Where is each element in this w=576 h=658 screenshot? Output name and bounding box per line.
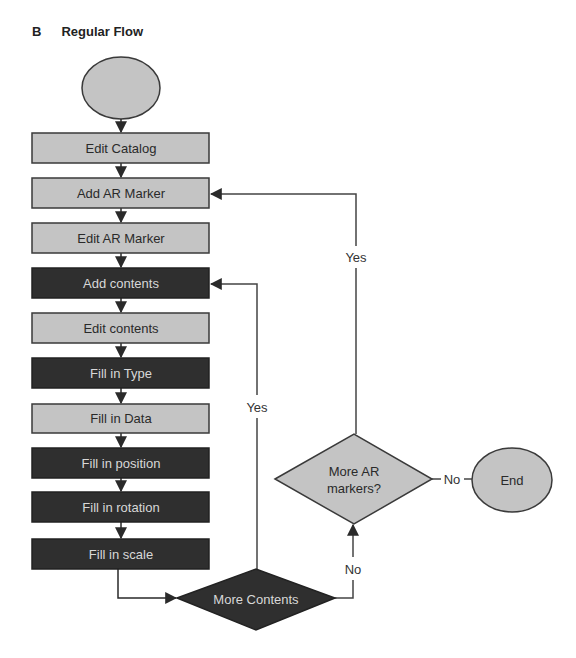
process-add-contents: Add contents — [32, 268, 209, 298]
process-label: Edit Catalog — [86, 141, 157, 156]
process-label: Edit contents — [83, 321, 159, 336]
process-label: Fill in Type — [90, 366, 152, 381]
connector-more-ar-yes-upper — [211, 194, 356, 246]
process-fill-in-position: Fill in position — [32, 448, 209, 478]
end-label: End — [500, 473, 523, 488]
decision-label: More Contents — [213, 592, 299, 607]
process-add-ar-marker: Add AR Marker — [32, 178, 209, 208]
process-label: Add contents — [83, 276, 159, 291]
process-label: Fill in position — [82, 456, 161, 471]
process-edit-ar-marker: Edit AR Marker — [32, 223, 209, 253]
decision-more-ar-markers: More AR markers? — [275, 434, 432, 524]
decision-label-line1: More AR — [329, 464, 380, 479]
connector-more-contents-yes-upper — [211, 284, 257, 395]
process-fill-in-data: Fill in Data — [32, 404, 209, 433]
edge-label-more-contents-yes: Yes — [246, 400, 268, 415]
process-edit-contents: Edit contents — [32, 313, 209, 343]
flowchart: Edit Catalog Add AR Marker Edit AR Marke… — [0, 0, 576, 658]
start-node — [82, 57, 160, 119]
process-fill-in-type: Fill in Type — [32, 358, 209, 388]
process-edit-catalog: Edit Catalog — [32, 133, 209, 163]
connector-more-contents-no-lower — [335, 580, 353, 598]
process-label: Add AR Marker — [77, 186, 166, 201]
process-fill-in-scale: Fill in scale — [32, 539, 209, 569]
decision-more-contents: More Contents — [177, 569, 335, 630]
process-label: Fill in Data — [90, 411, 152, 426]
decision-label-line2: markers? — [327, 481, 381, 496]
process-label: Edit AR Marker — [77, 231, 165, 246]
process-label: Fill in rotation — [82, 500, 159, 515]
edge-label-more-contents-no: No — [345, 562, 362, 577]
loop-connectors — [211, 194, 472, 598]
process-fill-in-rotation: Fill in rotation — [32, 492, 209, 522]
edge-label-more-ar-yes: Yes — [345, 250, 367, 265]
connector-fill-in-scale-to-more-contents — [118, 569, 176, 598]
edge-label-more-ar-no: No — [444, 472, 461, 487]
end-node: End — [472, 448, 552, 512]
process-label: Fill in scale — [89, 547, 153, 562]
